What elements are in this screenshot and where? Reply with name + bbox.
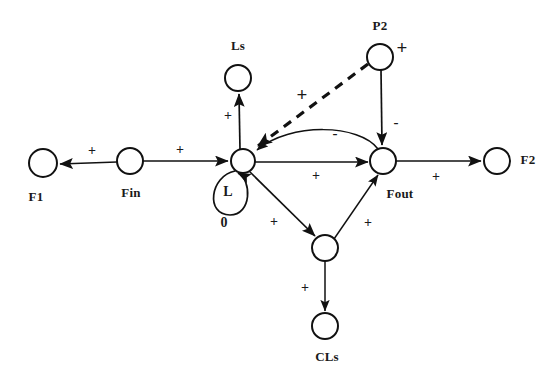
edge-p2-fout <box>381 70 382 145</box>
edge-sign-fin-f1: + <box>88 144 96 158</box>
node-cls[interactable] <box>312 313 338 339</box>
edge-sign-fout-f2: + <box>432 170 440 184</box>
edge-l-cl <box>250 172 315 236</box>
node-p2[interactable] <box>367 44 393 70</box>
edge-sign-fin-l: + <box>176 143 184 157</box>
node-l[interactable] <box>231 149 255 173</box>
edge-sign-p2-fout: - <box>394 115 399 130</box>
node-label-ls: Ls <box>231 38 245 54</box>
node-f2[interactable] <box>484 148 510 174</box>
node-f1[interactable] <box>29 149 57 177</box>
edge-sign-l-cl: + <box>270 215 278 229</box>
self-loop-label-l: L <box>223 184 232 200</box>
edge-sign-p2-l: + <box>297 85 308 104</box>
node-fin[interactable] <box>117 148 143 174</box>
edge-sign-l-ls: + <box>224 109 232 123</box>
node-fout[interactable] <box>370 148 396 174</box>
edge-sign-fout-l: - <box>333 126 338 141</box>
node-label-cls: CLs <box>315 349 339 365</box>
self-loop-order-label: 0 <box>221 215 228 231</box>
node-ls[interactable] <box>225 65 251 91</box>
edge-sign-cl-cls: + <box>301 281 309 295</box>
node-label-fout: Fout <box>387 186 414 202</box>
diagram-canvas: F1 Fin Ls P2 Fout F2 CLs L 0 + + + + - -… <box>0 0 558 378</box>
node-label-fin: Fin <box>121 185 140 201</box>
edge-fin-f1 <box>60 162 117 164</box>
edge-sign-l-fout: + <box>312 169 320 183</box>
node-label-p2: P2 <box>373 18 388 34</box>
p2-plus-badge: + <box>397 38 408 57</box>
diagram-svg <box>0 0 558 378</box>
edge-l-ls <box>239 94 240 150</box>
node-cl[interactable] <box>312 235 338 261</box>
node-label-f1: F1 <box>29 189 44 205</box>
edge-sign-cl-fout: + <box>364 216 372 230</box>
node-label-f2: F2 <box>521 152 536 168</box>
